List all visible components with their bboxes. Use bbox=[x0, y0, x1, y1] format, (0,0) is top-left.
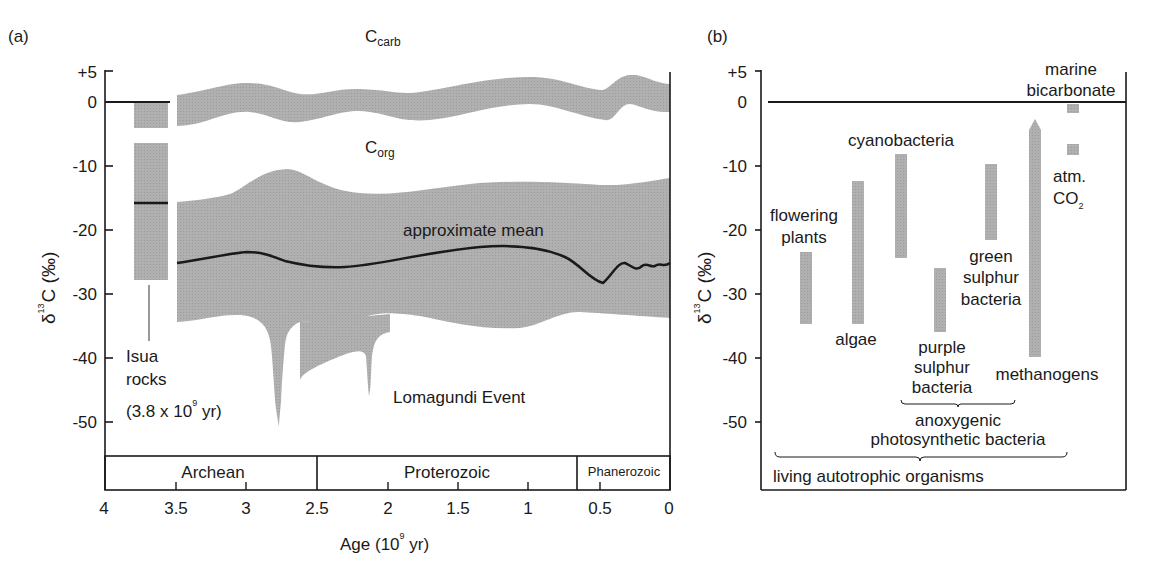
panel-a-xtick: 1.5 bbox=[446, 499, 470, 518]
bar-marine-bicarbonate bbox=[1067, 104, 1079, 113]
label-anoxygenic-2: photosynthetic bacteria bbox=[871, 430, 1046, 449]
panel-b-ytick: 0 bbox=[738, 93, 747, 112]
label-purple-2: sulphur bbox=[914, 358, 970, 377]
lomagundi-label: Lomagundi Event bbox=[393, 388, 526, 407]
label-cyanobacteria: cyanobacteria bbox=[848, 131, 954, 150]
panel-a-xtick: 3.5 bbox=[164, 499, 188, 518]
label-atm-2: CO2 bbox=[1053, 189, 1084, 211]
label-green-1: green bbox=[969, 247, 1012, 266]
isua-label-2: rocks bbox=[126, 370, 167, 389]
svg-text:δ13C (‰): δ13C (‰) bbox=[692, 252, 715, 324]
panel-b-ytick: +5 bbox=[728, 63, 747, 82]
label-algae: algae bbox=[835, 330, 877, 349]
corg-label: Corg bbox=[365, 138, 395, 160]
panel-a-xtick: 3 bbox=[241, 499, 250, 518]
panel-b-ylabel: δ13C (‰) bbox=[692, 252, 715, 324]
isua-label-3: (3.8 x 109 yr) bbox=[126, 398, 222, 421]
bar-methanogens bbox=[1029, 119, 1041, 357]
panel-a-y-ticks bbox=[105, 71, 113, 422]
label-purple-3: bacteria bbox=[912, 378, 973, 397]
label-flowering-1: flowering bbox=[770, 206, 838, 225]
isua-label-1: Isua bbox=[126, 347, 159, 366]
panel-a-x-ticks bbox=[176, 482, 600, 490]
panel-b-label: (b) bbox=[707, 27, 728, 46]
panel-a-ytick: -40 bbox=[72, 349, 97, 368]
panel-a-ytick: -50 bbox=[72, 413, 97, 432]
panel-b-ytick: -50 bbox=[722, 413, 747, 432]
panel-b-ytick: -10 bbox=[722, 157, 747, 176]
panel-a-ytick: -30 bbox=[72, 285, 97, 304]
mean-label: approximate mean bbox=[403, 221, 544, 240]
eon-phanerozoic: Phanerozoic bbox=[588, 464, 661, 479]
eon-archean: Archean bbox=[181, 463, 244, 482]
panel-a-ytick: 0 bbox=[88, 93, 97, 112]
panel-b: (b) +5 0 -10 -20 -30 -40 -50 δ13C (‰) bbox=[692, 27, 1126, 490]
label-purple-1: purple bbox=[918, 338, 965, 357]
panel-b-ytick: -20 bbox=[722, 221, 747, 240]
label-green-2: sulphur bbox=[963, 268, 1019, 287]
panel-a: (a) +5 0 -10 -20 -30 bbox=[8, 27, 674, 554]
ccarb-label: Ccarb bbox=[365, 27, 401, 49]
panel-a-label: (a) bbox=[8, 27, 29, 46]
label-living: living autotrophic organisms bbox=[773, 467, 984, 486]
panel-a-xtick: 1 bbox=[523, 499, 532, 518]
brace-anoxygenic bbox=[901, 400, 1015, 407]
bar-cyanobacteria bbox=[895, 154, 907, 258]
lomagundi-spike bbox=[300, 314, 390, 396]
brace-living bbox=[775, 452, 1067, 461]
label-atm-1: atm. bbox=[1053, 167, 1086, 186]
eon-proterozoic: Proterozoic bbox=[404, 463, 490, 482]
bar-algae bbox=[852, 181, 864, 324]
bar-purple-sulphur bbox=[934, 268, 946, 332]
panel-a-xtick: 0 bbox=[664, 499, 673, 518]
panel-a-xlabel: Age (109 yr) bbox=[340, 531, 429, 554]
panel-b-ytick: -40 bbox=[722, 349, 747, 368]
label-marine-1: marine bbox=[1045, 60, 1097, 79]
panel-a-xtick: 2.5 bbox=[305, 499, 329, 518]
svg-text:δ13C (‰): δ13C (‰) bbox=[36, 252, 59, 324]
bar-green-sulphur bbox=[985, 164, 997, 240]
isua-org-block bbox=[134, 143, 168, 280]
panel-a-ylabel: δ13C (‰) bbox=[36, 252, 59, 324]
panel-b-ytick: -30 bbox=[722, 285, 747, 304]
label-marine-2: bicarbonate bbox=[1027, 81, 1116, 100]
label-methanogens: methanogens bbox=[995, 365, 1098, 384]
figure: (a) +5 0 -10 -20 -30 bbox=[0, 0, 1151, 574]
bar-flowering-plants bbox=[800, 252, 812, 324]
panel-a-ytick: +5 bbox=[78, 63, 97, 82]
bar-atm-co2 bbox=[1067, 144, 1079, 155]
panel-a-ytick: -10 bbox=[72, 157, 97, 176]
ccarb-band bbox=[177, 75, 670, 126]
panel-a-xtick: 2 bbox=[383, 499, 392, 518]
label-anoxygenic-1: anoxygenic bbox=[915, 411, 1002, 430]
panel-a-xtick: 0.5 bbox=[588, 499, 612, 518]
label-green-3: bacteria bbox=[961, 290, 1022, 309]
panel-a-xtick: 4 bbox=[99, 499, 108, 518]
label-flowering-2: plants bbox=[781, 228, 826, 247]
isua-carb-block bbox=[134, 102, 168, 128]
panel-b-y-ticks bbox=[755, 71, 761, 422]
panel-a-ytick: -20 bbox=[72, 221, 97, 240]
